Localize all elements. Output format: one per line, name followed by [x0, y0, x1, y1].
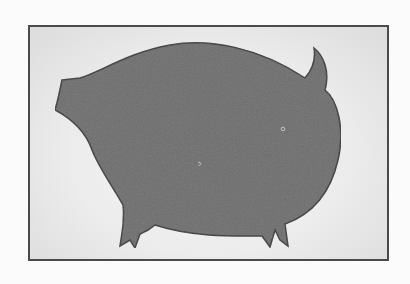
pig-silhouette-icon [0, 0, 410, 284]
pig-body [55, 43, 341, 248]
